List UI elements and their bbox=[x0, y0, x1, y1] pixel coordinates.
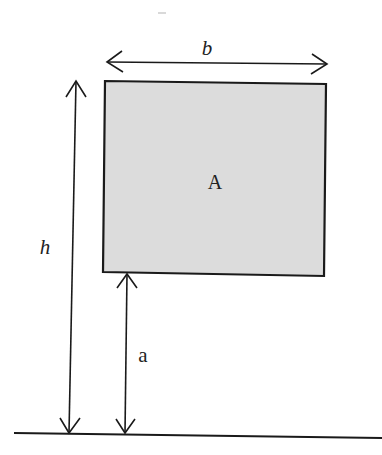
offset-label: a bbox=[138, 343, 148, 367]
ground-line bbox=[14, 433, 382, 438]
height-dimension-arrow bbox=[60, 81, 86, 433]
box-label: A bbox=[208, 171, 223, 193]
width-dimension-arrow bbox=[107, 51, 327, 74]
height-label: h bbox=[40, 235, 51, 259]
offset-dimension-arrow bbox=[116, 274, 137, 433]
width-label: b bbox=[202, 36, 213, 60]
diagram-canvas: b A h a bbox=[0, 0, 382, 455]
